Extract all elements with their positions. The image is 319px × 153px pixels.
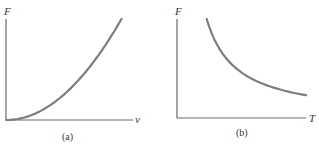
panel-b: F T (b)	[174, 5, 316, 139]
panel-b-caption: (b)	[236, 127, 248, 139]
panel-a-x-label: v	[135, 113, 140, 125]
panel-b-y-label: F	[174, 5, 182, 17]
panel-a-caption: (a)	[62, 131, 73, 143]
figure: F v (a) F T (b)	[0, 0, 319, 153]
panel-b-curve	[207, 19, 306, 95]
panel-a-curve	[6, 19, 122, 120]
panel-a: F v (a)	[3, 5, 140, 143]
panel-b-x-label: T	[309, 112, 316, 124]
panel-a-y-label: F	[3, 5, 11, 17]
